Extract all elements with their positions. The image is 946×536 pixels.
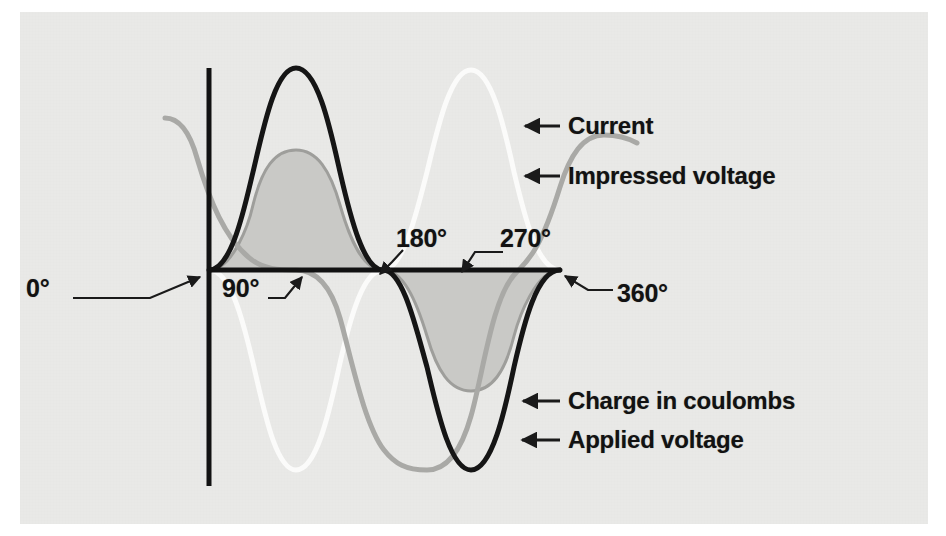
angle-label-90: 90° [222,276,259,301]
waveform-plot [0,0,946,536]
series-label-applied-voltage: Applied voltage [568,428,744,452]
angle-label-360: 360° [617,281,668,306]
leader-0deg [73,277,200,298]
series-label-impressed-voltage: Impressed voltage [568,164,775,188]
angle-label-180: 180° [396,226,447,251]
angle-label-270: 270° [500,226,551,251]
waveform-figure: 0° 90° 180° 270° 360° Current Impressed … [0,0,946,536]
leader-90deg [268,277,302,298]
series-label-charge-in-coulombs: Charge in coulombs [568,389,795,413]
leader-360deg [565,276,613,290]
series-label-current: Current [568,114,653,138]
angle-label-0: 0° [26,276,50,301]
